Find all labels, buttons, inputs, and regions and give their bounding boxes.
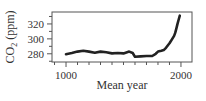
y-tick-label: 320 bbox=[28, 18, 45, 30]
x-axis-ticks bbox=[55, 62, 181, 67]
y-axis-label: CO2 (ppm) bbox=[3, 10, 19, 63]
x-tick-label: 2000 bbox=[170, 69, 193, 81]
y-tick-label: 300 bbox=[28, 33, 45, 45]
co2-line-chart: 280300320 10002000 Mean year CO2 (ppm) bbox=[0, 0, 206, 101]
x-tick-label: 1000 bbox=[55, 69, 78, 81]
y-axis-ticks bbox=[47, 16, 52, 61]
co2-series-line bbox=[66, 16, 180, 57]
x-axis-label: Mean year bbox=[97, 78, 148, 92]
y-axis-tick-labels: 280300320 bbox=[28, 18, 45, 60]
y-tick-label: 280 bbox=[28, 48, 45, 60]
